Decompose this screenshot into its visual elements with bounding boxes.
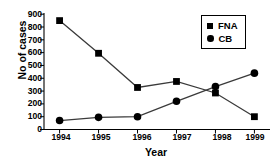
series-markers-cb <box>56 69 258 124</box>
legend-label-cb: CB <box>219 34 233 44</box>
series-line-cb <box>60 73 255 120</box>
legend-item-cb: CB <box>207 32 238 45</box>
circle-marker-icon <box>207 35 214 42</box>
legend: FNA CB <box>201 15 246 49</box>
legend-item-fna: FNA <box>207 19 238 32</box>
y-axis-tick-marks <box>40 14 44 129</box>
square-marker-icon <box>207 23 213 29</box>
line-chart-figure: No of cases 900 800 700 600 500 400 300 … <box>0 0 277 165</box>
x-axis-tick-marks <box>60 130 255 134</box>
legend-label-fna: FNA <box>218 21 238 31</box>
